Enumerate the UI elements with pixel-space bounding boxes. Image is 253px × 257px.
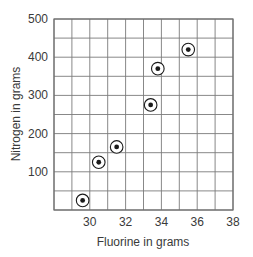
data-point-marker <box>152 62 165 75</box>
data-point-marker <box>92 156 105 169</box>
x-tick-label: 36 <box>191 215 205 229</box>
y-axis-label: Nitrogen in grams <box>9 67 23 162</box>
data-point-marker <box>182 43 195 56</box>
x-tick-label: 38 <box>226 215 240 229</box>
y-tick-label: 500 <box>28 12 48 26</box>
data-point-marker <box>76 194 89 207</box>
y-tick-label: 200 <box>28 127 48 141</box>
y-tick-label: 100 <box>28 165 48 179</box>
x-tick-label: 30 <box>83 215 97 229</box>
y-axis-ticks: 100200300400500 <box>28 12 48 179</box>
data-point-marker <box>110 141 123 154</box>
y-tick-label: 400 <box>28 50 48 64</box>
grid <box>54 19 233 210</box>
x-tick-label: 34 <box>155 215 169 229</box>
data-point-marker <box>144 99 157 112</box>
y-tick-label: 300 <box>28 88 48 102</box>
x-axis-label: Fluorine in grams <box>97 235 190 249</box>
data-points <box>76 43 194 206</box>
x-tick-label: 32 <box>119 215 133 229</box>
scatter-chart: 100200300400500 3032343638 Fluorine in g… <box>0 0 253 257</box>
x-axis-ticks: 3032343638 <box>83 215 240 229</box>
